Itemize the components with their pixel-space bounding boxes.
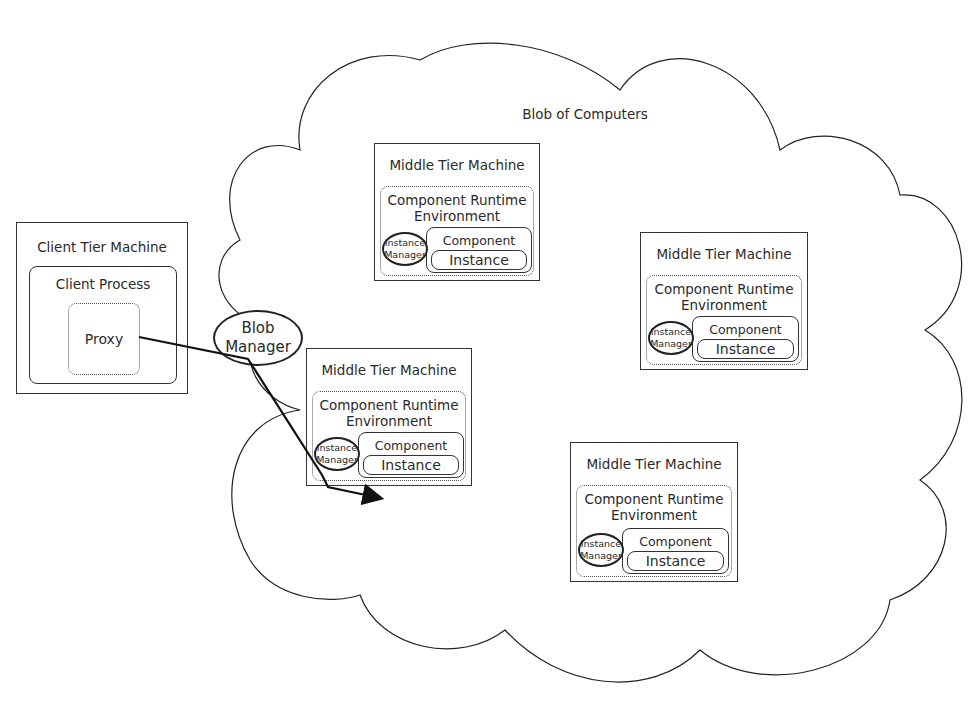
- machine-label: Middle Tier Machine: [307, 361, 471, 379]
- client-process-label: Client Process: [30, 275, 176, 293]
- client-process: Client Process Proxy: [29, 266, 177, 384]
- component-process: Component Process Instance: [692, 316, 799, 362]
- blob-manager[interactable]: BlobManager: [213, 310, 303, 366]
- component-process: Component Process Instance: [622, 528, 729, 574]
- cloud-title: Blob of Computers: [505, 106, 665, 122]
- instance-manager[interactable]: InstanceManager: [382, 232, 428, 266]
- client-tier-machine: Client Tier Machine Client Process Proxy: [16, 222, 188, 394]
- instance[interactable]: Instance: [363, 455, 459, 475]
- env-label-line2: Environment: [577, 506, 731, 524]
- machine-label: Middle Tier Machine: [571, 455, 737, 473]
- instance-manager[interactable]: InstanceManager: [648, 321, 694, 355]
- component-process: Component Process Instance: [426, 227, 532, 273]
- env-label-line2: Environment: [313, 412, 465, 430]
- component-process: Component Process Instance: [358, 432, 464, 478]
- env-label-line2: Environment: [647, 296, 801, 314]
- env-label-line2: Environment: [381, 207, 533, 225]
- machine-label: Middle Tier Machine: [375, 156, 539, 174]
- middle-tier-machine-3: Middle Tier Machine Component Runtime En…: [306, 348, 472, 486]
- proxy[interactable]: Proxy: [68, 303, 140, 375]
- instance[interactable]: Instance: [627, 551, 724, 571]
- instance-manager[interactable]: InstanceManager: [314, 437, 360, 471]
- machine-label: Middle Tier Machine: [641, 245, 807, 263]
- instance[interactable]: Instance: [697, 339, 794, 359]
- instance-manager[interactable]: InstanceManager: [578, 533, 624, 567]
- middle-tier-machine-2: Middle Tier Machine Component Runtime En…: [640, 232, 808, 370]
- middle-tier-machine-4: Middle Tier Machine Component Runtime En…: [570, 442, 738, 582]
- instance[interactable]: Instance: [431, 250, 527, 270]
- middle-tier-machine-1: Middle Tier Machine Component Runtime En…: [374, 143, 540, 281]
- client-machine-label: Client Tier Machine: [17, 238, 187, 256]
